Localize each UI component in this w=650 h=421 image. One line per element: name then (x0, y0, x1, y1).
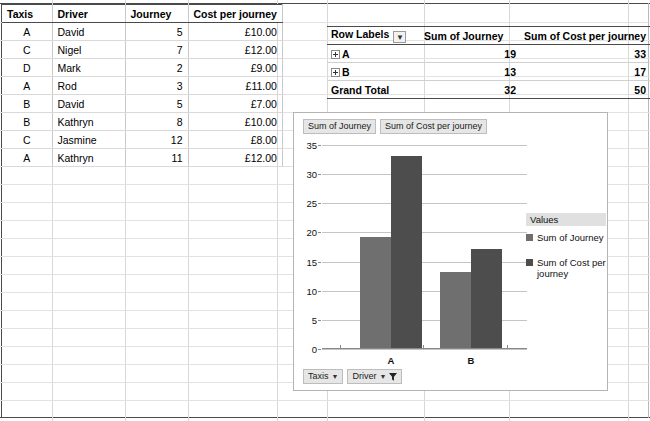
cell-journey[interactable]: 5 (125, 95, 188, 113)
cell-journey[interactable]: 7 (125, 41, 188, 59)
cell-journey[interactable]: 3 (125, 77, 188, 95)
cell-taxis[interactable]: C (2, 131, 52, 149)
pivot-grand-total-journey: 32 (420, 81, 520, 99)
pivot-row-label: A (342, 48, 350, 60)
cell-driver[interactable]: Mark (52, 59, 125, 77)
chart-field-button-sum-of-journey[interactable]: Sum of Journey (303, 119, 376, 134)
cell-taxis[interactable]: A (2, 149, 52, 167)
chart-field-button-sum-of-cost[interactable]: Sum of Cost per journey (380, 119, 487, 134)
column-header-taxis[interactable]: Taxis (2, 5, 52, 23)
table-row[interactable]: A Rod 3 £11.00 (2, 77, 282, 95)
pivot-grand-total-label: Grand Total (327, 81, 420, 99)
grid-bottom-edge (0, 417, 650, 418)
column-header-cost-per-journey[interactable]: Cost per journey (188, 5, 282, 23)
bar-b-sum-of-journey[interactable] (440, 272, 471, 348)
cell-journey[interactable]: 2 (125, 59, 188, 77)
cell-driver[interactable]: David (52, 95, 125, 113)
chart-ytick (318, 145, 321, 146)
cell-taxis[interactable]: A (2, 77, 52, 95)
bar-a-sum-of-cost[interactable] (391, 156, 422, 348)
table-row[interactable]: B David 5 £7.00 (2, 95, 282, 113)
chart-legend: Values Sum of Journey Sum of Cost per jo… (526, 213, 606, 293)
pivot-row[interactable]: B 13 17 (327, 63, 650, 81)
cell-driver[interactable]: David (52, 23, 125, 41)
expand-plus-icon[interactable] (331, 68, 340, 77)
legend-item-sum-of-journey[interactable]: Sum of Journey (526, 232, 606, 243)
legend-swatch-icon (526, 259, 533, 266)
chart-gridline (322, 203, 527, 204)
cell-driver[interactable]: Jasmine (52, 131, 125, 149)
chart-gridline (322, 232, 527, 233)
chart-ylabel: 15 (306, 256, 317, 267)
table-row[interactable]: C Jasmine 12 £8.00 (2, 131, 282, 149)
cell-driver[interactable]: Kathryn (52, 113, 125, 131)
cell-driver[interactable]: Nigel (52, 41, 125, 59)
pivot-row-label-cell[interactable]: A (327, 45, 420, 63)
cell-taxis[interactable]: B (2, 95, 52, 113)
cell-cost[interactable]: £10.00 (188, 23, 282, 41)
pivot-row-label-cell[interactable]: B (327, 63, 420, 81)
pivot-value-sum-journey[interactable]: 19 (420, 45, 520, 63)
table-row[interactable]: A David 5 £10.00 (2, 23, 282, 41)
bar-a-sum-of-journey[interactable] (360, 237, 391, 348)
chart-ytick (318, 174, 321, 175)
table-row[interactable]: B Kathryn 8 £10.00 (2, 113, 282, 131)
pivot-grand-total-row[interactable]: Grand Total 32 50 (327, 81, 650, 99)
pivot-header-row-labels[interactable]: Row Labels▼ (327, 27, 420, 45)
pivot-value-sum-journey[interactable]: 13 (420, 63, 520, 81)
chart-filter-button-taxis[interactable]: Taxis ▼ (303, 369, 343, 384)
chart-ytick (318, 349, 321, 350)
cell-taxis[interactable]: D (2, 59, 52, 77)
cell-cost[interactable]: £12.00 (188, 149, 282, 167)
source-data-table: Taxis Driver Journey Cost per journey A … (2, 4, 283, 167)
chart-xtick (423, 345, 424, 349)
cell-cost[interactable]: £9.00 (188, 59, 282, 77)
cell-journey[interactable]: 8 (125, 113, 188, 131)
pivot-header-sum-cost[interactable]: Sum of Cost per journey (520, 27, 650, 45)
column-header-journey[interactable]: Journey (125, 5, 188, 23)
legend-item-sum-of-cost[interactable]: Sum of Cost per journey (526, 257, 606, 279)
table-row[interactable]: C Nigel 7 £12.00 (2, 41, 282, 59)
cell-taxis[interactable]: C (2, 41, 52, 59)
chart-ytick (318, 203, 321, 204)
chart-ytick (318, 232, 321, 233)
pivot-value-sum-cost[interactable]: 33 (520, 45, 650, 63)
cell-cost[interactable]: £11.00 (188, 77, 282, 95)
chart-ylabel: 25 (306, 198, 317, 209)
chart-plot-area: 0 5 10 15 20 25 30 35 (322, 145, 527, 349)
expand-plus-icon[interactable] (331, 50, 340, 59)
legend-label: Sum of Journey (537, 232, 604, 243)
filter-dropdown-icon[interactable]: ▼ (393, 31, 406, 43)
legend-title: Values (526, 213, 606, 226)
cell-journey[interactable]: 5 (125, 23, 188, 41)
cell-driver[interactable]: Kathryn (52, 149, 125, 167)
chart-ylabel: 35 (306, 140, 317, 151)
chart-ylabel: 10 (306, 285, 317, 296)
cell-cost[interactable]: £12.00 (188, 41, 282, 59)
cell-cost[interactable]: £7.00 (188, 95, 282, 113)
pivot-chart[interactable]: Sum of Journey Sum of Cost per journey 0… (293, 112, 608, 391)
cell-journey[interactable]: 11 (125, 149, 188, 167)
pivot-row-label: B (342, 66, 350, 78)
cell-cost[interactable]: £10.00 (188, 113, 282, 131)
pivot-value-sum-cost[interactable]: 17 (520, 63, 650, 81)
caret-down-icon[interactable]: ▼ (379, 371, 386, 382)
pivot-row[interactable]: A 19 33 (327, 45, 650, 63)
table-row[interactable]: A Kathryn 11 £12.00 (2, 149, 282, 167)
pivot-header-sum-journey[interactable]: Sum of Journey (420, 27, 520, 45)
filter-button-label: Driver (352, 371, 376, 382)
pivot-grand-total-cost: 50 (520, 81, 650, 99)
chart-ytick (318, 320, 321, 321)
funnel-filter-icon[interactable] (389, 373, 397, 381)
table-row[interactable]: D Mark 2 £9.00 (2, 59, 282, 77)
cell-driver[interactable]: Rod (52, 77, 125, 95)
column-header-driver[interactable]: Driver (52, 5, 125, 23)
chart-filter-button-driver[interactable]: Driver ▼ (347, 369, 402, 384)
cell-journey[interactable]: 12 (125, 131, 188, 149)
cell-taxis[interactable]: B (2, 113, 52, 131)
filter-button-label: Taxis (308, 371, 329, 382)
cell-cost[interactable]: £8.00 (188, 131, 282, 149)
bar-b-sum-of-cost[interactable] (471, 249, 502, 348)
cell-taxis[interactable]: A (2, 23, 52, 41)
caret-down-icon[interactable]: ▼ (332, 371, 339, 382)
